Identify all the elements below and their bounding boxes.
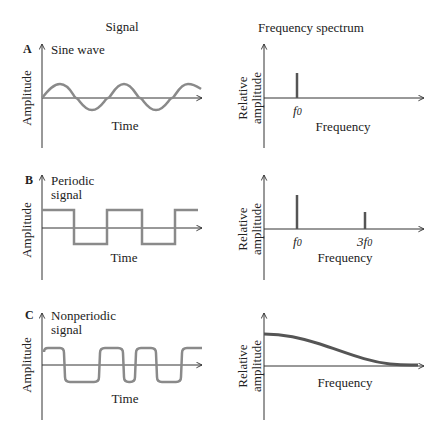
row-c-title-2: signal [51,322,82,337]
time-label: Time [112,391,139,406]
continuous-spectrum-curve [264,334,418,365]
amplitude-label: amplitude [249,340,264,392]
square-wave [42,210,198,244]
row-b-title-2: signal [51,187,82,202]
frequency-label: Frequency [318,375,373,390]
amplitude-label: Amplitude [19,337,34,393]
time-label: Time [112,118,139,133]
relative-label: Relative [235,207,250,251]
row-a-signal: A Sine wave Amplitude Time [19,42,202,148]
sine-wave [42,84,201,110]
3f0-tick-label: 3f0 [356,234,372,249]
row-b-spectrum: f0 3f0 Relative amplitude Frequency [235,175,424,280]
amplitude-label: amplitude [249,72,264,124]
spectrum-header: Frequency spectrum [258,20,364,35]
row-c-title-1: Nonperiodic [51,308,116,323]
signal-header: Signal [105,19,139,34]
f0-tick-label: f0 [293,103,302,118]
row-b-signal: B Periodic signal Amplitude Time [19,173,202,280]
row-a-letter: A [23,42,32,56]
relative-label: Relative [235,344,250,388]
amplitude-label: Amplitude [19,70,34,126]
row-a-title: Sine wave [51,42,105,57]
row-c-spectrum: Relative amplitude Frequency [235,313,424,420]
row-c-signal: C Nonperiodic signal Amplitude Time [19,308,202,420]
frequency-label: Frequency [318,250,373,265]
row-b-letter: B [25,173,33,187]
f0-tick-label: f0 [293,234,302,249]
row-b-title-1: Periodic [51,173,95,188]
relative-label: Relative [235,76,250,120]
time-label: Time [111,250,138,265]
row-a-spectrum: f0 Relative amplitude Frequency [235,44,424,148]
signal-spectrum-figure: Signal Frequency spectrum A Sine wave Am… [0,0,447,441]
row-c-letter: C [25,308,34,322]
frequency-label: Frequency [316,119,371,134]
amplitude-label: amplitude [249,203,264,255]
amplitude-label: Amplitude [19,202,34,258]
